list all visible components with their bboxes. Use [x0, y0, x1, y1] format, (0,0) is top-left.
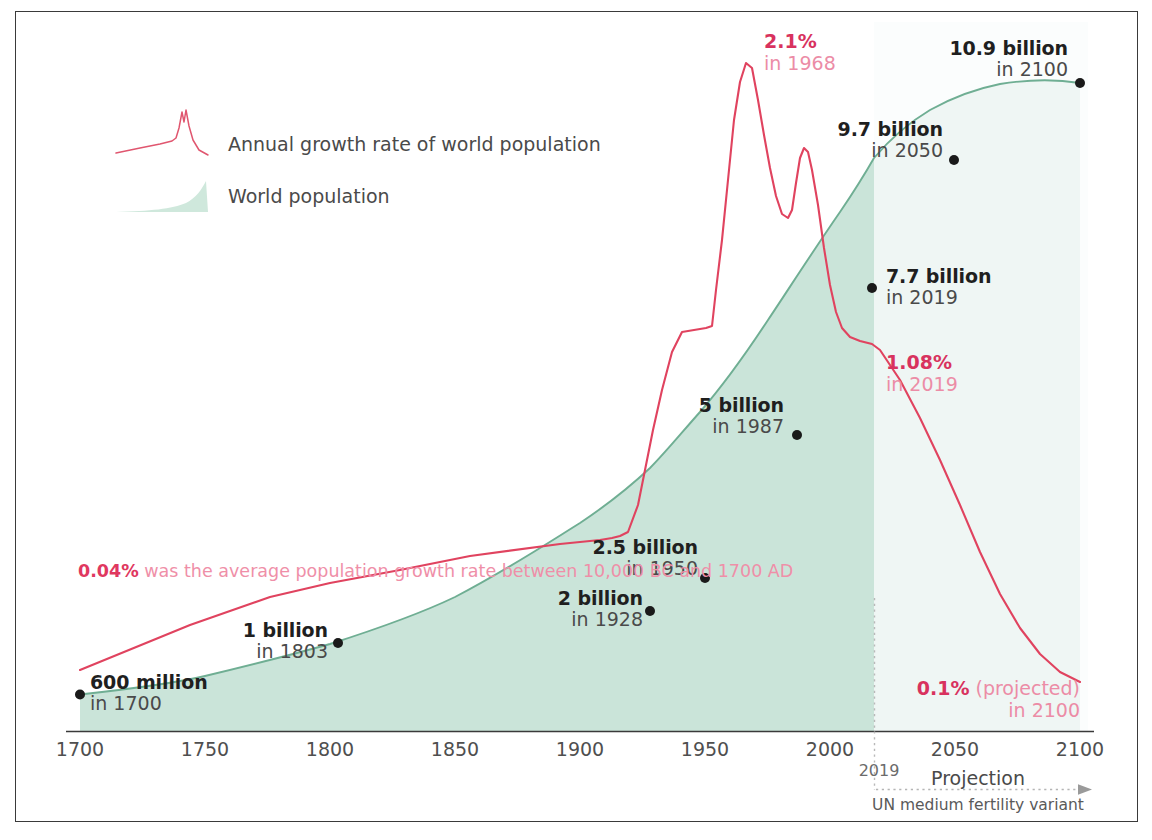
callout-600-million: 600 million in 1700 [90, 672, 208, 715]
callout-value: 600 million [90, 672, 208, 693]
callout-year: in 2100 [860, 700, 1080, 722]
callout-year: in 2019 [886, 287, 991, 308]
callout-year: in 1928 [495, 609, 643, 630]
marker-2100 [1075, 78, 1085, 88]
marker-2019 [867, 283, 877, 293]
x-tick-2050: 2050 [931, 738, 979, 760]
callout-value: 2.1% [764, 31, 836, 53]
callout-year: in 1803 [180, 641, 328, 662]
legend-item-world-population-label: World population [228, 185, 390, 207]
marker-1803 [333, 638, 343, 648]
callout-value: 5 billion [632, 395, 784, 416]
x-tick-2000: 2000 [806, 738, 854, 760]
x-tick-1850: 1850 [431, 738, 479, 760]
callout-year: in 2100 [900, 59, 1068, 80]
callout-year: in 1968 [764, 53, 836, 75]
legend-sparkline-red-peak-icon [116, 110, 208, 155]
callout-5-billion: 5 billion in 1987 [632, 395, 784, 438]
callout-value: 7.7 billion [886, 266, 991, 287]
callout-year: in 2050 [795, 140, 943, 161]
chart-canvas: Annual growth rate of world population W… [0, 0, 1152, 840]
callout-10-9-billion: 10.9 billion in 2100 [900, 38, 1068, 81]
callout-value: 0.1% (projected) [860, 678, 1080, 700]
callout-year: in 2019 [886, 374, 958, 396]
callout-value-suffix: (projected) [969, 677, 1080, 699]
marker-2050 [949, 155, 959, 165]
marker-1987 [792, 430, 802, 440]
marker-1700 [75, 690, 85, 700]
x-tick-1900: 1900 [556, 738, 604, 760]
projection-sublabel: UN medium fertility variant [872, 796, 1084, 814]
average-growth-rate-text: was the average population growth rate b… [139, 561, 794, 581]
population-area-projection [874, 80, 1080, 731]
callout-value-number: 0.1% [917, 677, 970, 699]
x-tick-1750: 1750 [181, 738, 229, 760]
marker-1928 [645, 606, 655, 616]
x-tick-2019-projection-start: 2019 [859, 761, 900, 780]
callout-year: in 1987 [632, 416, 784, 437]
callout-value: 1 billion [180, 620, 328, 641]
callout-1-billion: 1 billion in 1803 [180, 620, 328, 663]
callout-value: 1.08% [886, 352, 958, 374]
x-tick-1700: 1700 [56, 738, 104, 760]
callout-7-7-billion: 7.7 billion in 2019 [886, 266, 991, 309]
callout-growth-0-1-percent: 0.1% (projected) in 2100 [860, 678, 1080, 721]
x-tick-1950: 1950 [681, 738, 729, 760]
callout-2-billion: 2 billion in 1928 [495, 588, 643, 631]
projection-arrow-head-icon [1078, 784, 1092, 795]
callout-year: in 1700 [90, 693, 208, 714]
callout-growth-1-08-percent: 1.08% in 2019 [886, 352, 958, 395]
projection-label: Projection [931, 767, 1025, 789]
average-growth-rate-highlight: 0.04% [78, 561, 139, 581]
legend-sparkline-green-area-icon [116, 181, 208, 212]
callout-value: 2 billion [495, 588, 643, 609]
callout-9-7-billion: 9.7 billion in 2050 [795, 119, 943, 162]
legend-item-growth-rate-label: Annual growth rate of world population [228, 133, 601, 155]
callout-value: 2.5 billion [530, 537, 698, 558]
average-growth-rate-note: 0.04% was the average population growth … [78, 560, 318, 582]
x-tick-2100: 2100 [1056, 738, 1104, 760]
callout-growth-2-1-percent: 2.1% in 1968 [764, 31, 836, 74]
x-tick-1800: 1800 [306, 738, 354, 760]
callout-value: 9.7 billion [795, 119, 943, 140]
callout-value: 10.9 billion [900, 38, 1068, 59]
